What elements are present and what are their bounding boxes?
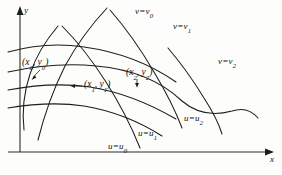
point-label-1-sub1: 1	[104, 86, 107, 93]
curve-label-u0: u=u0	[108, 142, 127, 151]
point-label-2-sub1: 2	[146, 74, 149, 81]
point-label-0-close: )	[45, 57, 48, 67]
curve-label-u2-base: u=u	[184, 113, 200, 123]
v-curve-left-edge	[23, 26, 58, 130]
y-axis-arrowhead	[17, 6, 24, 15]
x-axis-label: x	[270, 154, 274, 164]
curve-label-u1-base: u=u	[138, 128, 154, 138]
curve-label-v1-base: v=v	[173, 21, 188, 31]
v-curve-0	[38, 8, 107, 140]
curve-label-v0-base: v=v	[135, 6, 150, 16]
curve-label-u2-sub: 2	[200, 119, 204, 126]
point-label-2-mid: , y	[137, 67, 146, 77]
curve-label-v1-sub: 1	[188, 27, 192, 34]
curve-label-v0-sub: 0	[150, 12, 154, 19]
point-label-0-mid: , y	[33, 57, 42, 67]
curve-label-v2: v=v2	[218, 57, 236, 66]
curve-label-u1-sub: 1	[154, 134, 158, 141]
point-label-1-sub0: 1	[91, 86, 94, 93]
point-label-0: (x0, y0)	[22, 58, 48, 68]
pointer-arrowhead-p1	[71, 84, 76, 88]
curve-label-v0: v=v0	[135, 7, 153, 16]
pointer-arrowhead-p2	[135, 83, 139, 88]
curve-label-v2-sub: 2	[233, 62, 237, 69]
point-label-2-close: )	[149, 67, 152, 77]
coordinate-diagram: y x v=v0 v=v1 v=v2 u=u2 u=u1 u=u0 (x0, y…	[0, 0, 282, 175]
diagram-canvas	[0, 0, 282, 175]
curve-label-v1: v=v1	[173, 22, 191, 31]
curve-label-u0-sub: 0	[124, 147, 128, 154]
point-label-2: (x2, y2)	[126, 68, 152, 78]
point-label-1-mid: , y	[95, 79, 104, 89]
point-label-2-sub0: 2	[133, 74, 136, 81]
pointer-arrowhead-p0	[32, 75, 37, 80]
curve-label-u0-base: u=u	[108, 141, 124, 151]
point-label-0-sub0: 0	[29, 64, 32, 71]
curve-label-v2-base: v=v	[218, 56, 233, 66]
point-label-1-close: )	[107, 79, 110, 89]
v-curve-family	[23, 8, 222, 148]
curve-label-u1: u=u1	[138, 129, 157, 138]
curve-label-u2: u=u2	[184, 114, 203, 123]
point-label-0-sub1: 0	[42, 64, 45, 71]
y-axis-label: y	[24, 5, 28, 15]
point-label-1: (x1, y1)	[84, 80, 110, 90]
